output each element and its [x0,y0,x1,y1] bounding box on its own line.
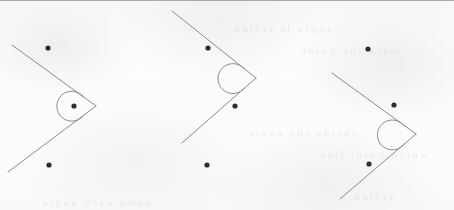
point-dot-p2[interactable] [71,103,76,108]
reflex-angle-figure-1 [8,45,96,172]
geometry-figures-svg [0,0,454,210]
point-dot-p1[interactable] [365,46,370,51]
point-dot-p3[interactable] [46,162,51,167]
point-dot-p1[interactable] [205,45,210,50]
reflex-angle-arc [57,91,84,121]
point-dot-p2[interactable] [232,103,237,108]
point-dot-p2[interactable] [391,102,396,107]
point-dot-p1[interactable] [45,45,50,50]
reflex-angle-arc [218,64,245,94]
reflex-angle-figure-2 [172,11,256,168]
point-dot-p3[interactable] [204,162,209,167]
point-dot-p3[interactable] [366,161,371,166]
reflex-angle-figure-3 [332,46,416,199]
worksheet-scan: angle is reflexmark the pointinside the … [0,0,454,210]
reflex-angle-arc [377,120,404,150]
geometry-figures-layer [0,0,454,210]
